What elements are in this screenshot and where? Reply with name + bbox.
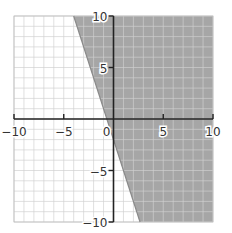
svg-text:−10: −10 (1, 125, 26, 139)
svg-text:0: 0 (103, 125, 111, 139)
svg-text:10: 10 (92, 10, 107, 24)
svg-text:−5: −5 (55, 125, 73, 139)
svg-text:−5: −5 (90, 165, 108, 179)
svg-text:5: 5 (100, 62, 108, 76)
inequality-graph: −10−50510−10−5510 (0, 0, 232, 233)
svg-text:−10: −10 (82, 216, 107, 230)
svg-text:5: 5 (159, 125, 167, 139)
svg-text:10: 10 (205, 125, 220, 139)
